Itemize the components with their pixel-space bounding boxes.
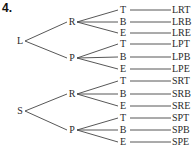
tree-diagram-lines [0, 0, 194, 150]
tree-branch-node: P [69, 53, 75, 63]
tree-leaf-node: B [120, 52, 127, 62]
tree-leaf-node: B [120, 17, 127, 27]
tree-leaf-node: E [120, 28, 126, 38]
tree-outcome: SPT [172, 113, 189, 123]
tree-leaf-node: E [120, 137, 126, 147]
tree-outcome: LRB [172, 17, 191, 27]
tree-outcome: SPB [172, 125, 190, 135]
tree-outcome: LPB [172, 52, 190, 62]
tree-leaf-node: B [120, 89, 127, 99]
tree-outcome: SRT [172, 76, 190, 86]
tree-root-node: S [17, 106, 23, 116]
tree-branch-node: P [69, 125, 75, 135]
tree-outcome: LPE [172, 64, 190, 74]
tree-leaf-node: E [120, 64, 126, 74]
tree-outcome: LRE [172, 28, 191, 38]
tree-leaf-node: E [120, 101, 126, 111]
tree-branch-node: R [69, 17, 76, 27]
tree-leaf-node: T [120, 39, 126, 49]
tree-outcome: SPE [172, 137, 189, 147]
tree-leaf-node: T [120, 113, 126, 123]
tree-root-node: L [17, 36, 23, 46]
tree-outcome: SRB [172, 89, 191, 99]
tree-outcome: LRT [172, 5, 190, 15]
tree-outcome: SRE [172, 101, 190, 111]
tree-leaf-node: T [120, 5, 126, 15]
tree-branch-node: R [69, 89, 76, 99]
tree-leaf-node: T [120, 76, 126, 86]
tree-outcome: LPT [172, 39, 190, 49]
tree-leaf-node: B [120, 125, 127, 135]
